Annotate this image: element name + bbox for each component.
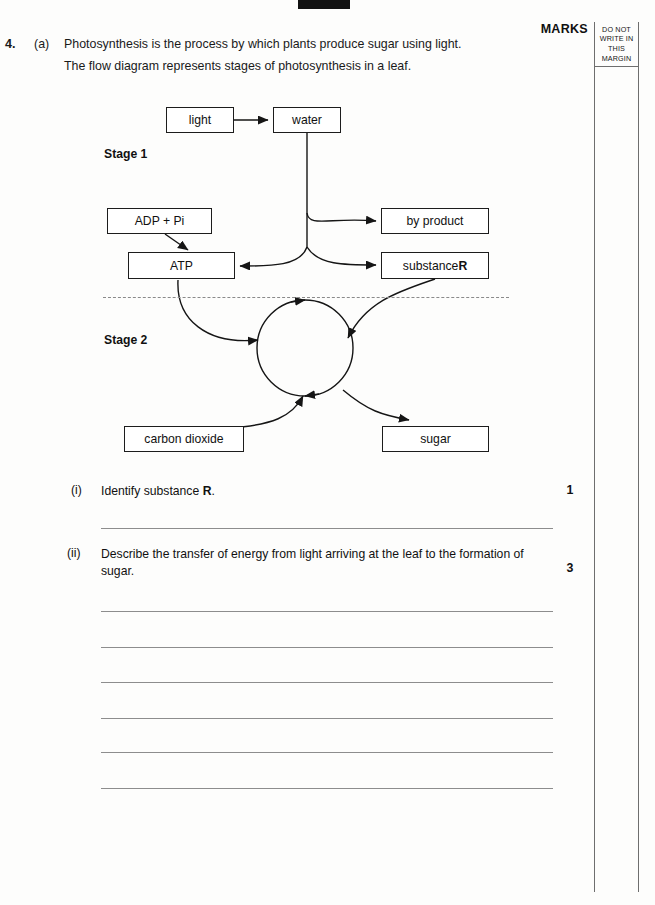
stage-1-label: Stage 1	[104, 147, 147, 161]
answer-line[interactable]	[101, 718, 553, 719]
box-carbon-dioxide-label: carbon dioxide	[144, 432, 223, 446]
answer-line[interactable]	[101, 682, 553, 683]
box-sugar: sugar	[382, 426, 489, 452]
notice-line-4: MARGIN	[602, 54, 632, 63]
answer-line[interactable]	[101, 752, 553, 753]
notice-line-3: THIS	[608, 44, 625, 53]
box-by-product-label: by product	[407, 214, 464, 228]
question-part-letter: (a)	[34, 37, 49, 51]
box-substance-r: substance R	[381, 252, 489, 279]
do-not-write-notice: DO NOT WRITE IN THIS MARGIN	[594, 22, 639, 67]
subquestion-i-marks: 1	[563, 483, 577, 497]
flow-diagram-connectors	[0, 95, 560, 470]
subquestion-i-text-suffix: .	[211, 484, 214, 498]
answer-line[interactable]	[101, 788, 553, 789]
box-adp-pi: ADP + Pi	[107, 208, 212, 234]
subquestion-ii-label: (ii)	[67, 546, 81, 560]
subquestion-ii-text: Describe the transfer of energy from lig…	[101, 546, 541, 580]
question-stem-line-2: The flow diagram represents stages of ph…	[64, 59, 411, 73]
exam-page: MARKS DO NOT WRITE IN THIS MARGIN 4. (a)…	[0, 0, 655, 905]
box-carbon-dioxide: carbon dioxide	[124, 426, 244, 452]
subquestion-i-label: (i)	[71, 483, 82, 497]
box-light: light	[166, 107, 234, 133]
box-light-label: light	[189, 113, 211, 127]
box-water-label: water	[292, 113, 322, 127]
notice-line-1: DO NOT	[602, 25, 631, 34]
subquestion-ii-text-line-1: Describe the transfer of energy from lig…	[101, 547, 456, 561]
box-substance-r-letter: R	[458, 259, 467, 273]
box-by-product: by product	[381, 208, 489, 234]
answer-line[interactable]	[101, 647, 553, 648]
box-atp-label: ATP	[170, 259, 193, 273]
answer-line[interactable]	[101, 528, 553, 529]
answer-line[interactable]	[101, 611, 553, 612]
photosynthesis-flow-diagram: light water Stage 1 ADP + Pi ATP by prod…	[0, 95, 560, 470]
stage-2-label: Stage 2	[104, 333, 147, 347]
question-stem-line-1: Photosynthesis is the process by which p…	[64, 37, 461, 51]
marks-heading: MARKS	[528, 22, 588, 36]
box-sugar-label: sugar	[420, 432, 451, 446]
stage-divider-dashed-line	[103, 297, 509, 298]
subquestion-i-text: Identify substance R.	[101, 483, 521, 500]
registration-mark	[298, 0, 350, 9]
do-not-write-margin-column	[594, 22, 639, 892]
box-water: water	[273, 107, 341, 133]
box-adp-pi-label: ADP + Pi	[135, 214, 185, 228]
subquestion-i-text-prefix: Identify substance	[101, 484, 203, 498]
notice-line-2: WRITE IN	[600, 34, 634, 43]
box-substance-r-label: substance	[403, 259, 459, 273]
question-number: 4.	[5, 37, 16, 51]
subquestion-ii-marks: 3	[563, 561, 577, 575]
box-atp: ATP	[128, 252, 235, 279]
